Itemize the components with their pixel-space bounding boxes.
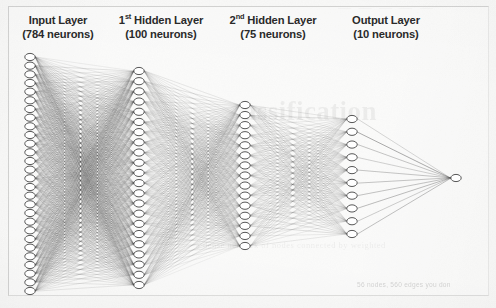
network-node-hidden1: [134, 118, 144, 125]
network-node-input: [25, 71, 35, 78]
network-node-hidden2: [240, 192, 250, 199]
network-edge: [357, 157, 451, 178]
network-node-hidden1: [134, 139, 144, 146]
network-node-hidden1: [134, 108, 144, 115]
network-node-hidden2: [240, 111, 250, 118]
network-node-hidden2: [240, 232, 250, 239]
network-node-hidden2: [240, 222, 250, 229]
network-node-input: [25, 97, 35, 104]
network-edge: [250, 115, 347, 145]
network-node-input: [25, 235, 35, 242]
network-node-hidden1: [134, 241, 144, 248]
network-node-hidden2: [240, 162, 250, 169]
network-node-input: [25, 149, 35, 156]
network-node-hidden1: [134, 261, 144, 268]
network-node-input: [25, 131, 35, 138]
network-node-input: [25, 218, 35, 225]
network-node-input: [25, 287, 35, 294]
network-node-input: [25, 79, 35, 86]
network-edge: [357, 119, 451, 179]
network-node-hidden1: [134, 251, 144, 258]
network-node-hidden1: [134, 98, 144, 105]
edge-group-output-to-terminal: [357, 119, 451, 234]
network-node-hidden1: [134, 190, 144, 197]
network-node-hidden1: [134, 159, 144, 166]
network-node-input: [25, 183, 35, 190]
network-node-hidden1: [134, 149, 144, 156]
node-column-hidden1: [134, 67, 144, 288]
edge-group-input-to-hidden1: [35, 57, 134, 292]
network-node-input: [25, 244, 35, 251]
network-node-hidden2: [240, 182, 250, 189]
network-edge: [357, 144, 451, 178]
network-node-hidden1: [134, 180, 144, 187]
network-node-hidden2: [240, 122, 250, 129]
network-node-output: [347, 115, 357, 122]
network-node-hidden2: [240, 202, 250, 209]
node-column-hidden2: [240, 101, 250, 249]
network-node-input: [25, 114, 35, 121]
network-node-input: [25, 105, 35, 112]
network-node-hidden1: [134, 129, 144, 136]
network-edge: [250, 132, 347, 155]
network-node-hidden2: [240, 142, 250, 149]
network-node-hidden2: [240, 132, 250, 139]
network-node-hidden1: [134, 210, 144, 217]
network-node-hidden1: [134, 220, 144, 227]
network-node-hidden1: [134, 169, 144, 176]
network-edge: [357, 178, 451, 222]
network-node-input: [25, 261, 35, 268]
network-node-hidden2: [240, 242, 250, 249]
network-node-hidden1: [134, 67, 144, 74]
node-column-output: [347, 115, 357, 237]
edge-group-hidden1-to-hidden2: [144, 71, 240, 286]
network-node-input: [25, 140, 35, 147]
network-node-input: [25, 62, 35, 69]
network-node-input: [25, 166, 35, 173]
network-node-input: [25, 157, 35, 164]
node-column-input: [25, 53, 35, 294]
network-node-input: [25, 53, 35, 60]
network-node-input: [25, 209, 35, 216]
network-node-output: [347, 192, 357, 199]
network-node-input: [25, 279, 35, 286]
network-node-output: [347, 218, 357, 225]
network-node-input: [25, 201, 35, 208]
network-node-input: [25, 192, 35, 199]
network-node-input: [25, 88, 35, 95]
neural-network-diagram: [0, 0, 496, 308]
network-node-hidden1: [134, 88, 144, 95]
network-node-input: [25, 270, 35, 277]
network-node-output: [347, 205, 357, 212]
node-column-terminal: [451, 174, 461, 181]
network-node-hidden1: [134, 200, 144, 207]
network-node-output: [347, 167, 357, 174]
network-node-hidden1: [134, 271, 144, 278]
network-node-hidden2: [240, 101, 250, 108]
network-node-output: [347, 141, 357, 148]
network-node-hidden1: [134, 230, 144, 237]
network-node-input: [25, 227, 35, 234]
network-node-hidden1: [134, 78, 144, 85]
network-edge: [35, 285, 134, 291]
network-node-hidden2: [240, 152, 250, 159]
network-node-hidden1: [134, 281, 144, 288]
network-node-input: [25, 123, 35, 130]
network-node-input: [25, 175, 35, 182]
network-edge: [35, 66, 134, 71]
network-node-input: [25, 253, 35, 260]
network-edge: [250, 145, 347, 208]
network-node-output: [347, 230, 357, 237]
edge-group-hidden2-to-output: [250, 105, 347, 247]
network-edge: [250, 221, 347, 246]
network-node-output: [347, 154, 357, 161]
network-node-hidden2: [240, 172, 250, 179]
network-node-hidden2: [240, 212, 250, 219]
network-edge: [250, 145, 347, 146]
network-node-terminal: [451, 174, 461, 181]
network-node-output: [347, 179, 357, 186]
network-node-output: [347, 128, 357, 135]
